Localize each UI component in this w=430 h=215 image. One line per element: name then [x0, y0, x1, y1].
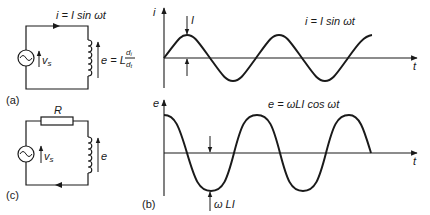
circuit-c: R vs e (c)	[6, 104, 107, 201]
current-equation-a: i = I sin ωt	[56, 9, 107, 21]
emf-equation-b: e = ωLI cos ωt	[268, 98, 340, 110]
circuit-a-wires	[26, 26, 88, 89]
ac-source-icon	[18, 146, 34, 162]
panel-c-label: (c)	[6, 189, 19, 201]
resistor-icon	[41, 117, 73, 125]
current-equation-b: i = I sin ωt	[305, 15, 356, 27]
source-voltage-label: vs	[44, 150, 54, 164]
emf-frac-denominator: dt	[126, 60, 132, 69]
current-direction-arrow-icon	[55, 182, 62, 188]
i-axis-label: i	[153, 6, 156, 18]
inductor-ac-diagram: vs e = L di dt i = I sin ωt (a) R vs e (…	[0, 0, 430, 215]
circuit-c-wires	[26, 121, 88, 185]
emf-frac-numerator: di	[126, 48, 132, 57]
amplitude-label-i: I	[191, 14, 194, 26]
e-axis-label: e	[153, 97, 159, 109]
resistor-label: R	[54, 104, 62, 116]
inductor-coil-icon	[88, 137, 92, 173]
inductor-coil-icon	[88, 40, 92, 76]
current-direction-arrow-icon	[53, 23, 60, 29]
panel-b-label: (b)	[142, 198, 155, 210]
graph-current: i t I i = I sin ωt	[153, 6, 417, 88]
source-voltage-label: vs	[42, 54, 52, 68]
graph-emf: e t ω LI e = ωLI cos ωt (b)	[142, 97, 417, 211]
ac-source-icon	[18, 50, 34, 66]
amplitude-label-e: ω LI	[214, 198, 235, 210]
panel-a-label: (a)	[6, 94, 19, 106]
circuit-a: vs e = L di dt i = I sin ωt (a)	[6, 9, 135, 106]
t-axis-label-top: t	[413, 60, 417, 72]
emf-equation-a: e = L	[101, 54, 126, 66]
emf-label-c: e	[101, 150, 107, 162]
t-axis-label-bottom: t	[413, 155, 417, 167]
